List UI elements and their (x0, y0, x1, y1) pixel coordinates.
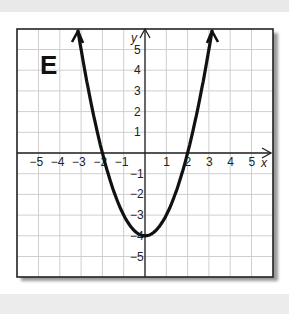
x-tick-label: −3 (72, 155, 86, 169)
x-axis-label: x (260, 156, 268, 170)
y-tick-label: −1 (130, 167, 144, 181)
x-tick-label: −4 (51, 155, 65, 169)
figure-label: E (40, 50, 57, 80)
y-tick-label: 1 (134, 125, 141, 139)
x-tick-label: 5 (249, 155, 256, 169)
x-tick-label: −5 (30, 155, 44, 169)
x-tick-label: −1 (115, 155, 129, 169)
x-tick-label: 4 (227, 155, 234, 169)
y-tick-label: 4 (134, 63, 141, 77)
x-tick-label: 3 (206, 155, 213, 169)
y-tick-label: 2 (134, 105, 141, 119)
coordinate-graph: −5−4−3−2−112345 54321−1−2−3−4−5 x y E (0, 0, 289, 314)
y-axis-label: y (130, 31, 138, 45)
y-tick-label: −3 (130, 208, 144, 222)
y-tick-label: −2 (130, 187, 144, 201)
y-tick-label: −5 (130, 250, 144, 264)
y-tick-label: 3 (134, 84, 141, 98)
x-tick-label: 1 (163, 155, 170, 169)
